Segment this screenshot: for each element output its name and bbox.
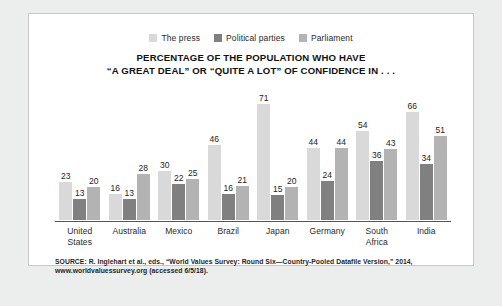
legend-swatch-icon [214, 34, 222, 42]
bar-value-label: 15 [273, 184, 282, 194]
bar[interactable] [406, 112, 419, 220]
legend-item-2[interactable]: Parliament [299, 33, 353, 43]
bar-value-label: 24 [323, 170, 332, 180]
x-axis-label: Germany [303, 226, 353, 247]
bar[interactable] [434, 136, 447, 220]
bar-value-label: 23 [61, 171, 70, 181]
bar-value-label: 51 [436, 125, 445, 135]
bar-column[interactable]: 34 [420, 86, 433, 220]
source-line-1: SOURCE: R. Inglehart et al., eds., “Worl… [55, 257, 453, 266]
bar-value-label: 44 [337, 137, 346, 147]
bar-column[interactable]: 13 [123, 86, 136, 220]
bar-column[interactable]: 54 [356, 86, 369, 220]
bar-value-label: 66 [408, 101, 417, 111]
bar[interactable] [208, 145, 221, 220]
chart-title-line: “A GREAT DEAL” OR “QUITE A LOT” OF CONFI… [29, 65, 473, 78]
bar-value-label: 36 [372, 150, 381, 160]
bar[interactable] [384, 149, 397, 220]
legend-label: The press [161, 33, 200, 43]
bar[interactable] [321, 181, 334, 220]
bar-column[interactable]: 30 [158, 86, 171, 220]
bar-column[interactable]: 15 [271, 86, 284, 220]
bar[interactable] [335, 148, 348, 220]
bar-column[interactable]: 24 [321, 86, 334, 220]
bar-value-label: 16 [111, 183, 120, 193]
bar-group: 302225 [154, 86, 204, 220]
x-axis-label: United States [55, 226, 105, 247]
bar-group: 543643 [352, 86, 402, 220]
source-line-2: www.worldvaluessurvey.org (accessed 6/5/… [55, 266, 453, 275]
legend-item-0[interactable]: The press [149, 33, 200, 43]
bar-value-label: 71 [259, 93, 268, 103]
bar-value-label: 13 [125, 188, 134, 198]
bar[interactable] [236, 186, 249, 220]
bar-value-label: 21 [238, 175, 247, 185]
x-axis-label: Japan [253, 226, 303, 247]
bar-value-label: 44 [309, 137, 318, 147]
bar-value-label: 20 [89, 176, 98, 186]
bar-column[interactable]: 44 [307, 86, 320, 220]
bar[interactable] [285, 187, 298, 220]
bar-value-label: 20 [287, 176, 296, 186]
bar[interactable] [257, 104, 270, 220]
chart-legend: The pressPolitical partiesParliament [29, 33, 473, 43]
bar-column[interactable]: 20 [87, 86, 100, 220]
bar[interactable] [109, 194, 122, 220]
x-axis-label: Mexico [154, 226, 204, 247]
bar-value-label: 46 [210, 134, 219, 144]
bar-column[interactable]: 22 [172, 86, 185, 220]
bar-value-label: 43 [386, 138, 395, 148]
chart-plot-area: 2313201613283022254616217115204424445436… [55, 86, 451, 220]
bar[interactable] [73, 199, 86, 220]
bar-group: 461621 [204, 86, 254, 220]
bar-column[interactable]: 20 [285, 86, 298, 220]
bar-column[interactable]: 21 [236, 86, 249, 220]
bar-column[interactable]: 71 [257, 86, 270, 220]
x-axis-label: South Africa [352, 226, 402, 247]
legend-item-1[interactable]: Political parties [214, 33, 285, 43]
bar-group: 711520 [253, 86, 303, 220]
bar-column[interactable]: 25 [186, 86, 199, 220]
bar[interactable] [222, 194, 235, 220]
x-axis-label: India [402, 226, 452, 247]
bar[interactable] [307, 148, 320, 220]
chart-card: The pressPolitical partiesParliament PER… [28, 13, 474, 266]
bar[interactable] [370, 161, 383, 220]
bar-column[interactable]: 23 [59, 86, 72, 220]
bar[interactable] [356, 131, 369, 220]
bar-column[interactable]: 51 [434, 86, 447, 220]
bar[interactable] [271, 195, 284, 220]
bar-group: 231320 [55, 86, 105, 220]
bar-value-label: 16 [224, 183, 233, 193]
bar-value-label: 25 [188, 168, 197, 178]
bar[interactable] [420, 164, 433, 220]
bar-column[interactable]: 13 [73, 86, 86, 220]
bar-value-label: 30 [160, 160, 169, 170]
bar-value-label: 13 [75, 188, 84, 198]
bar-column[interactable]: 46 [208, 86, 221, 220]
x-axis-label: Australia [105, 226, 155, 247]
chart-title-line: PERCENTAGE OF THE POPULATION WHO HAVE [29, 52, 473, 65]
x-axis-label: Brazil [204, 226, 254, 247]
bar-column[interactable]: 16 [109, 86, 122, 220]
bar-value-label: 54 [358, 120, 367, 130]
bar-column[interactable]: 36 [370, 86, 383, 220]
bar-group: 161328 [105, 86, 155, 220]
bar[interactable] [59, 182, 72, 220]
legend-swatch-icon [299, 34, 307, 42]
x-axis-labels: United StatesAustraliaMexicoBrazilJapanG… [55, 226, 451, 247]
legend-label: Parliament [311, 33, 353, 43]
bar[interactable] [87, 187, 100, 220]
bar[interactable] [158, 171, 171, 220]
bar-column[interactable]: 16 [222, 86, 235, 220]
bar[interactable] [186, 179, 199, 220]
bar[interactable] [172, 184, 185, 220]
bar-column[interactable]: 43 [384, 86, 397, 220]
bar-column[interactable]: 44 [335, 86, 348, 220]
bar-groups: 2313201613283022254616217115204424445436… [55, 86, 451, 220]
bar[interactable] [123, 199, 136, 220]
bar-column[interactable]: 66 [406, 86, 419, 220]
bar[interactable] [137, 174, 150, 220]
bar-column[interactable]: 28 [137, 86, 150, 220]
source-note: SOURCE: R. Inglehart et al., eds., “Worl… [55, 257, 453, 275]
